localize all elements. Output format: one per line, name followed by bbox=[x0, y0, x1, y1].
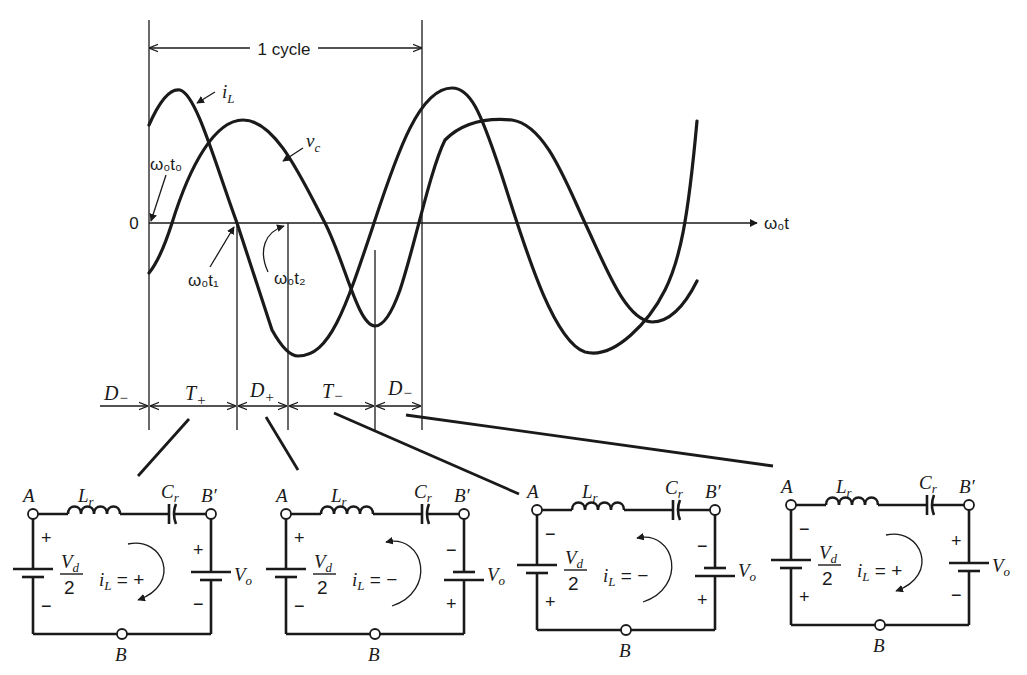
capacitor-label: Cr bbox=[919, 472, 938, 496]
current-label: iL = − bbox=[603, 565, 648, 589]
vc-label: vc bbox=[306, 130, 320, 155]
vd-top-sign: − bbox=[799, 519, 810, 539]
node-B bbox=[370, 629, 380, 639]
vd-bottom-sign: + bbox=[545, 592, 556, 612]
vo-bottom-sign: + bbox=[446, 594, 457, 614]
t0-label: ω₀t₀ bbox=[150, 155, 182, 174]
vd-bottom-sign: + bbox=[799, 587, 810, 607]
interval-label-D-minus-1: D− bbox=[103, 382, 129, 406]
vo-bottom-sign: − bbox=[951, 585, 962, 605]
inductor-label: Lr bbox=[835, 476, 853, 500]
vd-numerator: Vd bbox=[565, 547, 584, 571]
origin-label: 0 bbox=[129, 214, 138, 233]
node-B-prime-label: B′ bbox=[454, 485, 471, 506]
circuit-3: ABB′LrCrVd2−+Vo−+iL = − bbox=[517, 477, 757, 661]
node-B-label: B bbox=[115, 644, 127, 665]
iL-leader-arrow bbox=[197, 92, 215, 103]
vo-top-sign: + bbox=[193, 540, 204, 560]
vo-label: Vo bbox=[234, 564, 253, 588]
iL-label: iL bbox=[222, 81, 235, 106]
t1-label: ω₀t₁ bbox=[188, 271, 219, 290]
node-B-prime bbox=[206, 509, 216, 519]
capacitor-label: Cr bbox=[665, 477, 684, 501]
interval-label-T-minus: T− bbox=[322, 380, 343, 404]
node-A-label: A bbox=[274, 485, 288, 506]
t0-leader-arrow bbox=[151, 175, 166, 221]
node-A bbox=[281, 509, 291, 519]
node-B-prime bbox=[459, 509, 469, 519]
node-B bbox=[875, 620, 885, 630]
vd-top-sign: + bbox=[41, 528, 52, 548]
resonant-converter-diagram: 1 cycle 0 ω₀t iL vc ω₀t₀ ω₀t₁ ω₀t₂ bbox=[0, 0, 1027, 675]
t2-label: ω₀t₂ bbox=[274, 269, 306, 288]
vd-top-sign: + bbox=[294, 528, 305, 548]
vo-label: Vo bbox=[992, 555, 1011, 579]
leader-to-circuit-2 bbox=[266, 417, 298, 470]
vd-denominator: 2 bbox=[568, 573, 579, 594]
capacitor-label: Cr bbox=[414, 481, 433, 505]
circuit-1: ABB′LrCrVd2+−Vo+−iL = + bbox=[13, 481, 253, 665]
vd-denominator: 2 bbox=[822, 568, 833, 589]
inductor-symbol bbox=[68, 507, 120, 515]
node-A-label: A bbox=[779, 476, 793, 497]
circuit-2: ABB′LrCrVd2+−Vo−+iL = − bbox=[266, 481, 506, 665]
vo-top-sign: + bbox=[951, 531, 962, 551]
leader-to-circuit-1 bbox=[138, 419, 189, 476]
waveform-plot: 1 cycle 0 ω₀t iL vc ω₀t₀ ω₀t₁ ω₀t₂ bbox=[129, 20, 789, 430]
vd-top-sign: − bbox=[545, 524, 556, 544]
interval-label-D-minus-2: D− bbox=[387, 377, 413, 401]
vd-numerator: Vd bbox=[819, 542, 838, 566]
node-B-prime bbox=[964, 500, 974, 510]
inductor-symbol bbox=[572, 503, 624, 511]
node-B-label: B bbox=[368, 644, 380, 665]
node-B-label: B bbox=[873, 635, 885, 656]
t1-leader-arrow bbox=[210, 227, 234, 267]
vo-label: Vo bbox=[487, 564, 506, 588]
vd-numerator: Vd bbox=[314, 551, 333, 575]
node-B bbox=[621, 625, 631, 635]
node-A bbox=[786, 500, 796, 510]
node-B-label: B bbox=[619, 640, 631, 661]
node-A-label: A bbox=[21, 485, 35, 506]
interval-label-T-plus: T+ bbox=[185, 382, 206, 408]
inductor-symbol bbox=[321, 507, 373, 515]
current-label: iL = + bbox=[857, 560, 902, 584]
vd-bottom-sign: − bbox=[294, 596, 305, 616]
node-B bbox=[117, 629, 127, 639]
vd-denominator: 2 bbox=[64, 577, 75, 598]
cycle-label: 1 cycle bbox=[258, 40, 311, 59]
node-B-prime-label: B′ bbox=[705, 481, 722, 502]
vo-label: Vo bbox=[738, 560, 757, 584]
interval-label-D-plus: D+ bbox=[249, 379, 275, 405]
node-A bbox=[532, 505, 542, 515]
node-B-prime-label: B′ bbox=[959, 476, 976, 497]
leader-to-circuit-4 bbox=[406, 415, 773, 466]
node-B-prime-label: B′ bbox=[201, 485, 218, 506]
vo-top-sign: − bbox=[446, 540, 457, 560]
inductor-label: Lr bbox=[581, 481, 599, 505]
vd-denominator: 2 bbox=[317, 577, 328, 598]
vo-top-sign: − bbox=[697, 536, 708, 556]
t2-leader-arrow bbox=[263, 226, 284, 272]
inductor-symbol bbox=[826, 498, 878, 506]
circuit-group: ABB′LrCrVd2+−Vo+−iL = +ABB′LrCrVd2+−Vo−+… bbox=[13, 472, 1011, 665]
vo-bottom-sign: − bbox=[193, 594, 204, 614]
node-B-prime bbox=[710, 505, 720, 515]
vd-numerator: Vd bbox=[61, 551, 80, 575]
current-label: iL = − bbox=[352, 569, 397, 593]
inductor-label: Lr bbox=[330, 485, 348, 509]
iL-waveform bbox=[149, 88, 697, 356]
node-A-label: A bbox=[525, 481, 539, 502]
vd-bottom-sign: − bbox=[41, 596, 52, 616]
x-axis-label: ω₀t bbox=[764, 214, 789, 233]
capacitor-label: Cr bbox=[161, 481, 180, 505]
inductor-label: Lr bbox=[77, 485, 95, 509]
node-A bbox=[28, 509, 38, 519]
circuit-4: ABB′LrCrVd2−+Vo+−iL = + bbox=[771, 472, 1011, 656]
current-label: iL = + bbox=[99, 569, 144, 593]
vo-bottom-sign: + bbox=[697, 590, 708, 610]
